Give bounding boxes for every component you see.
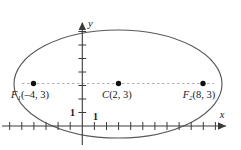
focus-1-label: F1(–4, 3): [10, 89, 49, 102]
focus-2-point: [200, 81, 205, 86]
focus-2-label: F2(8, 3): [182, 89, 216, 102]
center-label-coords: (2, 3): [109, 89, 132, 101]
center-point: [116, 81, 121, 86]
x-axis-label: x: [219, 109, 225, 120]
y-axis-label: y: [87, 18, 93, 29]
center-label: C(2, 3): [102, 89, 132, 101]
y-axis-arrow-icon: [79, 22, 86, 30]
x-axis-arrow-icon: [218, 122, 226, 130]
y-axis-tick-label: 1: [70, 107, 75, 118]
focus-1-label-coords: (–4, 3): [21, 89, 49, 101]
ellipse-figure: y x 1 1 F1(–4, 3) C(2, 3) F2(8, 3): [0, 0, 241, 150]
coordinate-plane: y x 1 1 F1(–4, 3) C(2, 3) F2(8, 3): [0, 0, 241, 150]
focus-2-label-coords: (8, 3): [193, 89, 216, 101]
focus-1-point: [31, 81, 36, 86]
x-axis-tick-label: 1: [93, 111, 98, 122]
